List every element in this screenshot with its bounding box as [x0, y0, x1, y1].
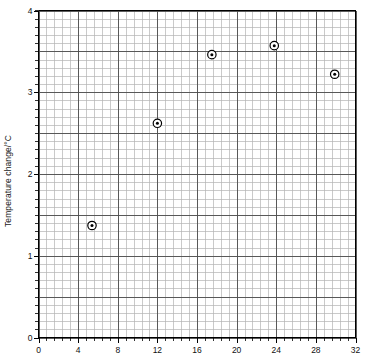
y-tick-label: 0 [19, 333, 33, 343]
x-tick-label: 20 [232, 345, 241, 355]
x-tick-label: 0 [36, 345, 41, 355]
plot-area [0, 0, 367, 362]
y-tick-label: 3 [19, 87, 33, 97]
scatter-chart: Temperature change/°C 048121620242832012… [0, 0, 367, 362]
y-tick-label: 4 [19, 6, 33, 16]
y-tick-label: 1 [19, 251, 33, 261]
x-tick-label: 32 [351, 345, 360, 355]
x-tick-label: 12 [153, 345, 162, 355]
data-point-1 [156, 122, 159, 125]
x-tick-label: 4 [76, 345, 81, 355]
x-tick-label: 28 [311, 345, 320, 355]
data-point-0 [90, 224, 93, 227]
y-tick-label: 2 [19, 169, 33, 179]
data-point-2 [210, 53, 213, 56]
data-point-3 [273, 44, 276, 47]
x-tick-label: 16 [192, 345, 201, 355]
x-tick-label: 8 [115, 345, 120, 355]
data-point-4 [333, 73, 336, 76]
x-tick-label: 24 [272, 345, 281, 355]
